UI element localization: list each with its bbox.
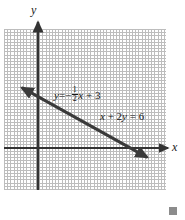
equation-standard-form: x + 2y = 6 <box>100 111 144 122</box>
fraction-denominator: 2 <box>72 94 78 103</box>
standard-term1-variable: x <box>100 110 105 122</box>
standard-term2-variable: y <box>122 110 127 122</box>
axes-and-line-layer <box>0 0 185 220</box>
x-axis-label: x <box>172 141 177 153</box>
equation-variable-x: x <box>78 89 83 101</box>
standard-equals-sign: = <box>130 110 136 122</box>
fraction-numerator: 1 <box>72 86 78 94</box>
equation-negative-sign: − <box>65 89 71 101</box>
graph-figure: y x y=−12x + 3 x + 2y = 6 <box>0 0 185 220</box>
standard-operator: + <box>108 110 114 122</box>
equation-constant: 3 <box>95 89 101 101</box>
end-of-figure-square-marker <box>169 207 177 215</box>
equation-plus-sign: + <box>86 89 92 101</box>
fraction-one-half: 12 <box>72 86 78 104</box>
y-axis-label: y <box>31 4 36 16</box>
equation-slope-intercept: y=−12x + 3 <box>54 86 100 104</box>
standard-rhs: 6 <box>139 110 145 122</box>
